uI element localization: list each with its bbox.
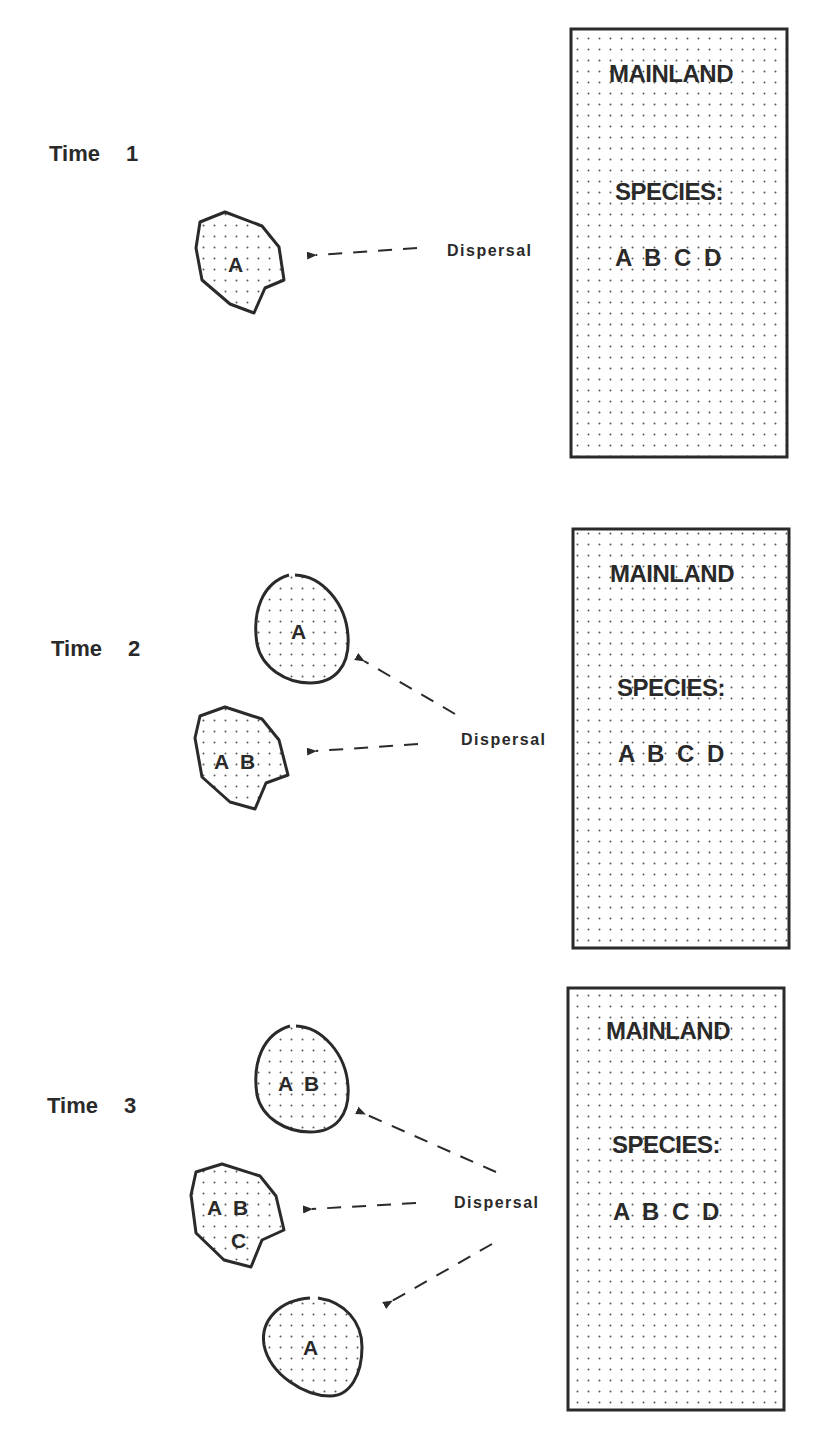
- dispersal-label: Dispersal: [447, 242, 533, 260]
- mainland-title: MAINLAND: [609, 60, 733, 88]
- island-species: C: [231, 1229, 246, 1253]
- dispersal-arrow: [364, 661, 455, 714]
- island-species: A: [228, 253, 243, 277]
- time-label-text: Time: [49, 141, 100, 166]
- time-label: Time3: [47, 1093, 136, 1119]
- species-heading: SPECIES:: [617, 674, 725, 702]
- island-species: A B: [207, 1196, 248, 1220]
- island-species: A: [291, 620, 306, 644]
- dispersal-label: Dispersal: [454, 1194, 540, 1212]
- mainland-box: [573, 529, 789, 948]
- island-species: A: [303, 1336, 318, 1360]
- species-heading: SPECIES:: [615, 178, 723, 206]
- dispersal-arrow: [392, 1244, 492, 1301]
- dispersal-arrow: [316, 248, 417, 255]
- time-number: 2: [128, 636, 140, 661]
- mainland-title: MAINLAND: [606, 1017, 730, 1045]
- island-species: A B: [278, 1072, 319, 1096]
- mainland-species-list: A B C D: [613, 1198, 722, 1226]
- time-label-text: Time: [47, 1093, 98, 1118]
- dispersal-arrow: [365, 1114, 496, 1172]
- mainland-species-list: A B C D: [615, 244, 724, 272]
- island-species: A B: [214, 750, 255, 774]
- dispersal-arrow: [312, 1203, 416, 1209]
- mainland-title: MAINLAND: [610, 560, 734, 588]
- time-label: Time2: [51, 636, 140, 662]
- species-heading: SPECIES:: [612, 1131, 720, 1159]
- time-number: 3: [124, 1093, 136, 1118]
- time-label: Time1: [49, 141, 138, 167]
- mainland-box: [571, 29, 787, 457]
- time-number: 1: [126, 141, 138, 166]
- dispersal-label: Dispersal: [461, 731, 547, 749]
- mainland-species-list: A B C D: [618, 740, 727, 768]
- time-label-text: Time: [51, 636, 102, 661]
- dispersal-arrow: [316, 744, 418, 751]
